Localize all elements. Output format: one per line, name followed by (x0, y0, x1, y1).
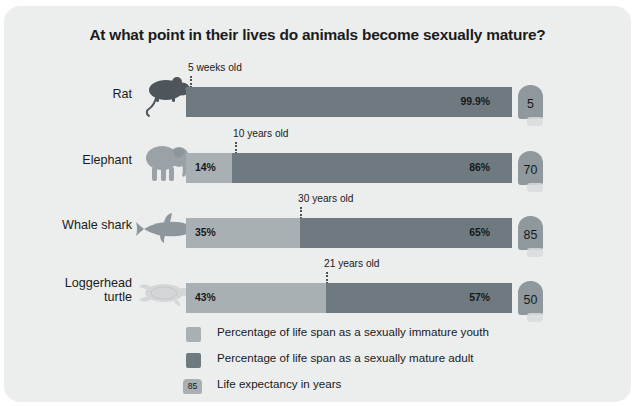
legend-label-life-expectancy: Life expectancy in years (217, 377, 341, 390)
life-expectancy-tag: 85 (518, 216, 543, 250)
animal-label-line1: Elephant (12, 153, 132, 167)
animal-label: Elephant (12, 153, 132, 167)
animal-label: Loggerhead turtle (12, 276, 132, 304)
legend-label-youth: Percentage of life span as a sexually im… (217, 325, 489, 338)
life-expectancy-tag: 5 (518, 85, 543, 119)
chart-row-rat: Rat 5 weeks old 99.9% 5 (4, 78, 631, 144)
maturity-note: 10 years old (233, 128, 289, 139)
whale-shark-icon (136, 211, 192, 267)
maturity-note: 5 weeks old (188, 62, 242, 73)
legend: Percentage of life span as a sexually im… (186, 322, 606, 400)
animal-label-line1: Loggerhead (12, 276, 132, 290)
life-expectancy-tag: 70 (518, 151, 543, 185)
elephant-icon (136, 136, 192, 192)
bar-value-youth: 43% (195, 283, 216, 313)
bar-track: 43% 57% (186, 283, 512, 313)
maturity-note: 30 years old (298, 193, 354, 204)
legend-swatch-adult (186, 353, 201, 368)
legend-label-adult: Percentage of life span as a sexually ma… (217, 351, 474, 364)
animal-label: Rat (12, 87, 132, 101)
page-title: At what point in their lives do animals … (4, 26, 631, 44)
animal-label-line1: Whale shark (12, 218, 132, 232)
bar-track: 99.9% (186, 87, 512, 117)
bar-value-youth: 14% (195, 153, 216, 183)
legend-badge-life-expectancy: 85 (183, 379, 202, 394)
bar-track: 14% 86% (186, 153, 512, 183)
animal-label: Whale shark (12, 218, 132, 232)
bar-value-adult: 99.9% (461, 87, 490, 117)
bar-value-adult: 65% (469, 218, 490, 248)
bar-value-adult: 57% (469, 283, 490, 313)
bar-value-youth: 35% (195, 218, 216, 248)
turtle-icon (136, 276, 192, 332)
maturity-note: 21 years old (324, 258, 380, 269)
animal-label-line1: Rat (12, 87, 132, 101)
infographic-card: At what point in their lives do animals … (4, 6, 631, 402)
animal-label-line2: turtle (12, 290, 132, 304)
legend-item-adult: Percentage of life span as a sexually ma… (186, 348, 606, 374)
legend-item-youth: Percentage of life span as a sexually im… (186, 322, 606, 348)
rat-icon (136, 72, 192, 128)
chart-row-whale-shark: Whale shark 30 years old 35% 65% 85 (4, 209, 631, 275)
bar-track: 35% 65% (186, 218, 512, 248)
bar-value-adult: 86% (469, 153, 490, 183)
life-expectancy-tag: 50 (518, 281, 543, 315)
legend-swatch-youth (186, 327, 201, 342)
legend-item-life-expectancy: 85 Life expectancy in years (186, 374, 606, 400)
